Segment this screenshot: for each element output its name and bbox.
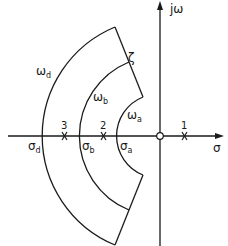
pole-1-label: 1 bbox=[181, 120, 187, 131]
pole-2-label: 2 bbox=[100, 120, 106, 131]
zeta-label: ζ bbox=[128, 51, 135, 65]
sigma-d-label: σd bbox=[28, 139, 41, 155]
pole-3-label: 3 bbox=[61, 120, 67, 131]
sigma-a-label: σa bbox=[120, 139, 133, 155]
omega-a-label: ωa bbox=[127, 108, 142, 124]
sigma-b-label: σb bbox=[82, 139, 95, 155]
jomega-label: jω bbox=[169, 2, 183, 16]
s-plane-diagram: jω σ ζ ωd ωb ωa σd σb σa 3 2 1 bbox=[0, 0, 228, 246]
omega-d-label: ωd bbox=[36, 64, 51, 80]
sigma-label: σ bbox=[213, 141, 221, 155]
origin-marker bbox=[157, 133, 164, 140]
sigma-axis-arrow-icon bbox=[215, 133, 224, 139]
jomega-axis-arrow-icon bbox=[157, 1, 163, 10]
omega-b-label: ωb bbox=[93, 90, 108, 106]
zeta-line-lower bbox=[115, 175, 143, 245]
